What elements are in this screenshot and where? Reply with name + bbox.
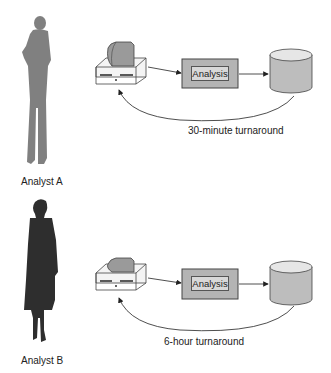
- computer-icon-b: [96, 258, 146, 290]
- arrow-to-analysis-b: [148, 278, 181, 283]
- turnaround-label-b: 6-hour turnaround: [164, 336, 244, 347]
- analyst-b-silhouette-icon: [24, 199, 58, 342]
- analysis-label-b: Analysis: [191, 276, 229, 291]
- computer-icon-a: [96, 42, 146, 84]
- database-icon-b: [270, 261, 312, 305]
- analyst-a-silhouette-icon: [22, 16, 51, 164]
- database-icon-a: [270, 49, 312, 93]
- analyst-b-label: Analyst B: [21, 355, 63, 366]
- analyst-a-label: Analyst A: [21, 176, 63, 187]
- return-arrow-b: [119, 298, 294, 331]
- analysis-label-a: Analysis: [191, 66, 229, 81]
- arrow-to-analysis-a: [148, 67, 181, 73]
- return-arrow-a: [119, 90, 294, 121]
- turnaround-label-a: 30-minute turnaround: [188, 125, 284, 136]
